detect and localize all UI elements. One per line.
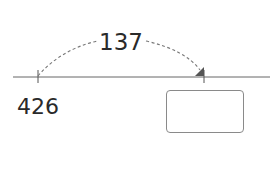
- answer-box[interactable]: [166, 90, 244, 133]
- arrowhead-icon: [195, 67, 204, 76]
- jump-arc-left: [38, 41, 97, 76]
- jump-label: 137: [99, 29, 143, 55]
- number-line-diagram: 137 426: [0, 0, 276, 170]
- jump-arc-right: [146, 41, 200, 70]
- start-label: 426: [17, 94, 59, 119]
